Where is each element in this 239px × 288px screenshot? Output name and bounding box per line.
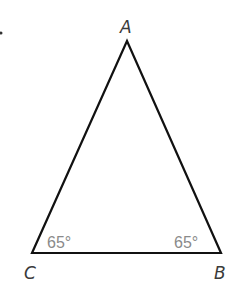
vertex-label-c: C bbox=[24, 263, 36, 283]
vertex-label-b: B bbox=[214, 263, 226, 283]
angle-label-c: 65° bbox=[47, 234, 71, 251]
triangle-diagram: A B C 65° 65° bbox=[0, 0, 239, 288]
triangle-abc bbox=[32, 41, 221, 253]
angle-label-b: 65° bbox=[174, 234, 198, 251]
vertex-label-a: A bbox=[119, 17, 132, 37]
stray-dot bbox=[0, 32, 3, 35]
